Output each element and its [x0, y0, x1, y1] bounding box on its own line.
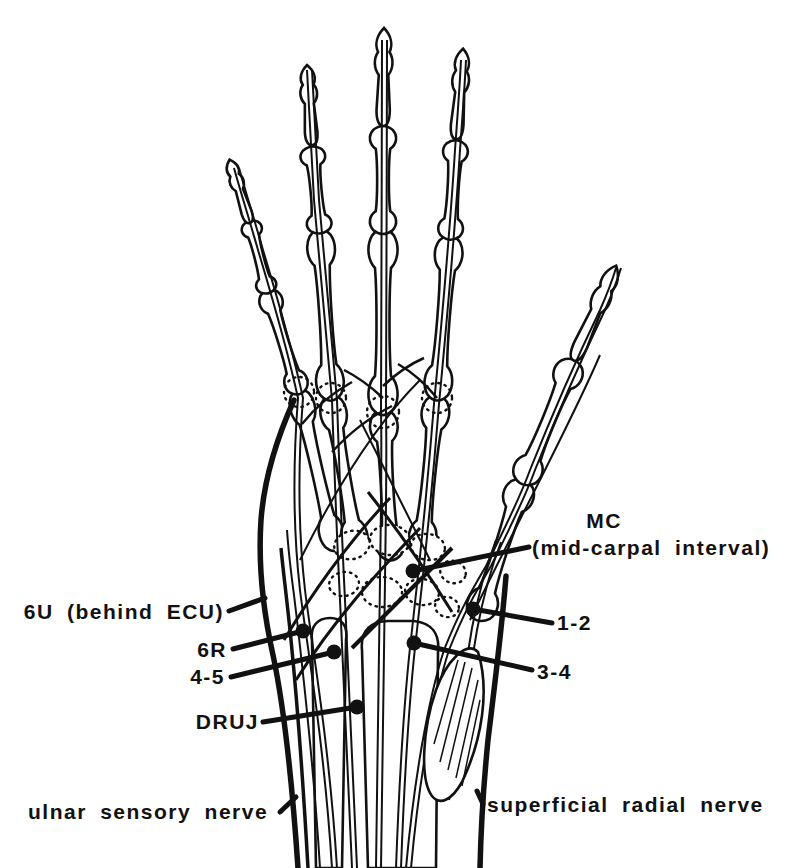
thumb-distal-phalanx: [565, 262, 624, 364]
label-mc: MC: [586, 509, 622, 532]
index-metacarpal: [407, 394, 451, 556]
index-proximal-phalanx: [423, 234, 464, 401]
ring-proximal-phalanx: [306, 228, 345, 401]
middle-proximal-phalanx: [368, 229, 397, 415]
label-ulnar-nerve: ulnar sensory nerve: [28, 800, 268, 823]
label-druj: DRUJ: [196, 710, 259, 733]
label-4-5: 4-5: [190, 665, 225, 688]
figure-canvas: 6U (behind ECU) 6R 4-5 DRUJ MC (mid-carp…: [0, 0, 811, 868]
label-mc-sub: (mid-carpal interval): [532, 536, 770, 559]
label-1-2: 1-2: [557, 611, 592, 634]
label-6u: 6U (behind ECU): [24, 600, 224, 623]
leader-6u: [229, 598, 265, 611]
hand-diagram: 6U (behind ECU) 6R 4-5 DRUJ MC (mid-carp…: [0, 0, 811, 868]
tendon-epb: [470, 355, 600, 620]
middle-middle-phalanx: [370, 126, 396, 234]
middle-distal-phalanx: [374, 28, 393, 126]
label-radial-nerve: superficial radial nerve: [487, 793, 764, 816]
label-3-4: 3-4: [537, 660, 572, 683]
label-6r: 6R: [197, 638, 227, 661]
